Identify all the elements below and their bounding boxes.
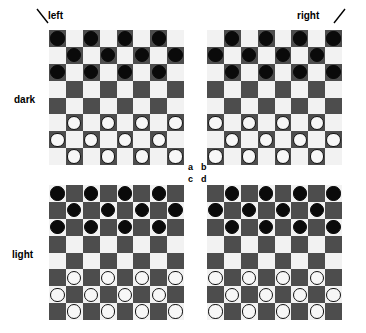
square-b-r1c3 xyxy=(241,30,258,47)
square-d-r5c3 xyxy=(241,253,258,270)
square-b-r6c3 xyxy=(241,114,258,131)
black-piece xyxy=(293,65,307,79)
white-piece xyxy=(67,149,81,163)
square-b-r2c3 xyxy=(241,47,258,64)
square-b-r3c2 xyxy=(224,64,241,81)
square-b-r1c7 xyxy=(308,30,325,47)
square-d-r8c3 xyxy=(241,303,258,320)
white-piece xyxy=(168,116,182,130)
square-c-r1c5 xyxy=(117,185,134,202)
square-a-r6c4 xyxy=(100,114,117,131)
square-d-r3c4 xyxy=(258,219,275,236)
square-c-r6c8 xyxy=(167,269,184,286)
square-d-r1c4 xyxy=(258,185,275,202)
square-a-r3c4 xyxy=(100,64,117,81)
square-c-r7c1 xyxy=(49,286,66,303)
square-c-r8c4 xyxy=(100,303,117,320)
square-a-r5c5 xyxy=(117,98,134,115)
square-d-r7c3 xyxy=(241,286,258,303)
square-c-r5c6 xyxy=(133,253,150,270)
square-a-r4c3 xyxy=(83,81,100,98)
checkerboard-a xyxy=(49,30,184,165)
right-pointer-line xyxy=(332,8,346,24)
square-b-r4c5 xyxy=(275,81,292,98)
square-b-r4c6 xyxy=(291,81,308,98)
square-a-r7c3 xyxy=(83,131,100,148)
white-piece xyxy=(310,116,324,130)
white-piece xyxy=(225,133,239,147)
square-a-r8c2 xyxy=(66,148,83,165)
square-c-r1c3 xyxy=(83,185,100,202)
white-piece xyxy=(259,133,273,147)
square-d-r1c6 xyxy=(291,185,308,202)
square-a-r3c1 xyxy=(49,64,66,81)
square-b-r7c1 xyxy=(207,131,224,148)
square-c-r4c6 xyxy=(133,236,150,253)
white-piece xyxy=(326,288,340,302)
black-piece xyxy=(67,48,81,62)
square-a-r4c4 xyxy=(100,81,117,98)
square-a-r3c2 xyxy=(66,64,83,81)
white-piece xyxy=(168,271,182,285)
black-piece xyxy=(208,203,222,217)
square-c-r4c2 xyxy=(66,236,83,253)
black-piece xyxy=(152,65,166,79)
square-d-r7c6 xyxy=(291,286,308,303)
square-c-r5c8 xyxy=(167,253,184,270)
black-piece xyxy=(152,31,166,45)
square-a-r4c8 xyxy=(167,81,184,98)
square-b-r8c3 xyxy=(241,148,258,165)
square-a-r1c6 xyxy=(133,30,150,47)
square-a-r6c3 xyxy=(83,114,100,131)
square-c-r3c4 xyxy=(100,219,117,236)
square-d-r8c8 xyxy=(325,303,342,320)
square-d-r3c6 xyxy=(291,219,308,236)
black-piece xyxy=(259,220,273,234)
black-piece xyxy=(50,220,64,234)
square-c-r6c2 xyxy=(66,269,83,286)
square-b-r8c8 xyxy=(325,148,342,165)
square-c-r4c3 xyxy=(83,236,100,253)
square-c-r8c5 xyxy=(117,303,134,320)
square-c-r2c5 xyxy=(117,202,134,219)
square-c-r5c2 xyxy=(66,253,83,270)
black-piece xyxy=(225,31,239,45)
black-piece xyxy=(84,186,98,200)
white-piece xyxy=(276,271,290,285)
square-a-r5c6 xyxy=(133,98,150,115)
square-c-r6c5 xyxy=(117,269,134,286)
square-a-r6c8 xyxy=(167,114,184,131)
square-a-r8c8 xyxy=(167,148,184,165)
square-d-r1c3 xyxy=(241,185,258,202)
white-piece xyxy=(84,288,98,302)
white-piece xyxy=(168,149,182,163)
square-b-r5c4 xyxy=(258,98,275,115)
square-b-r6c1 xyxy=(207,114,224,131)
quadrant-label-c: c xyxy=(188,174,193,184)
square-c-r3c5 xyxy=(117,219,134,236)
square-c-r4c1 xyxy=(49,236,66,253)
square-d-r8c5 xyxy=(275,303,292,320)
square-a-r2c2 xyxy=(66,47,83,64)
square-c-r1c7 xyxy=(150,185,167,202)
white-piece xyxy=(135,116,149,130)
square-b-r4c3 xyxy=(241,81,258,98)
quadrant-label-a: a xyxy=(188,162,193,172)
square-c-r4c4 xyxy=(100,236,117,253)
white-piece xyxy=(326,133,340,147)
square-c-r3c2 xyxy=(66,219,83,236)
square-b-r5c2 xyxy=(224,98,241,115)
column-label-left: left xyxy=(48,10,63,21)
square-b-r1c1 xyxy=(207,30,224,47)
black-piece xyxy=(225,186,239,200)
checkerboard-c xyxy=(49,185,184,320)
square-b-r7c6 xyxy=(291,131,308,148)
square-c-r4c8 xyxy=(167,236,184,253)
square-c-r7c8 xyxy=(167,286,184,303)
square-a-r7c6 xyxy=(133,131,150,148)
square-c-r2c2 xyxy=(66,202,83,219)
square-b-r2c8 xyxy=(325,47,342,64)
square-d-r4c5 xyxy=(275,236,292,253)
square-b-r6c2 xyxy=(224,114,241,131)
square-d-r5c6 xyxy=(291,253,308,270)
